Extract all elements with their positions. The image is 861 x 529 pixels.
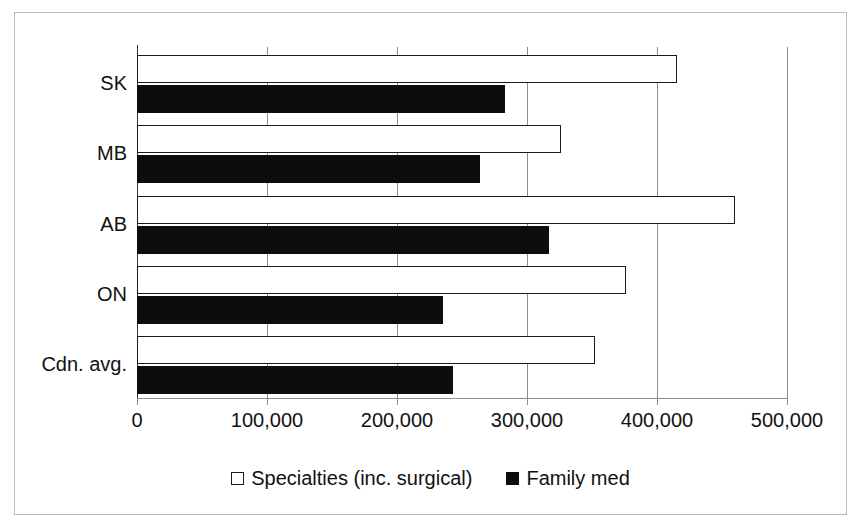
bar-on-family-med[interactable] (137, 296, 443, 324)
bar-cdn-avg-family-med[interactable] (137, 366, 453, 394)
filled-square-icon (506, 472, 519, 485)
category-label-ab: AB (7, 214, 127, 234)
x-tick-label: 400,000 (621, 410, 693, 430)
bar-sk-specialties[interactable] (137, 55, 677, 83)
bar-mb-family-med[interactable] (137, 155, 480, 183)
bar-cdn-avg-specialties[interactable] (137, 336, 595, 364)
bar-mb-specialties[interactable] (137, 125, 561, 153)
x-tick-300000 (527, 398, 528, 405)
bar-sk-family-med[interactable] (137, 85, 505, 113)
category-label-on: ON (7, 284, 127, 304)
x-tick-0 (137, 398, 138, 405)
legend-label-family-med: Family med (526, 468, 629, 488)
x-tick-label: 300,000 (491, 410, 563, 430)
legend-label-specialties: Specialties (inc. surgical) (251, 468, 472, 488)
x-tick-label: 0 (131, 410, 142, 430)
x-tick-500000 (787, 398, 788, 405)
x-tick-200000 (397, 398, 398, 405)
chart-legend: Specialties (inc. surgical) Family med (15, 468, 846, 488)
legend-item-family-med[interactable]: Family med (506, 468, 629, 488)
bar-on-specialties[interactable] (137, 266, 626, 294)
gridline-500000 (787, 47, 788, 398)
x-tick-label: 500,000 (751, 410, 823, 430)
category-label-sk: SK (7, 73, 127, 93)
x-tick-label: 100,000 (231, 410, 303, 430)
x-tick-label: 200,000 (361, 410, 433, 430)
bar-ab-family-med[interactable] (137, 226, 549, 254)
legend-item-specialties[interactable]: Specialties (inc. surgical) (231, 468, 472, 488)
category-label-mb: MB (7, 143, 127, 163)
bar-ab-specialties[interactable] (137, 196, 735, 224)
chart-screenshot: 0100,000200,000300,000400,000500,000SKMB… (0, 0, 861, 529)
x-tick-100000 (267, 398, 268, 405)
open-square-icon (231, 472, 244, 485)
x-axis-line (137, 398, 788, 399)
category-label-cdn-avg: Cdn. avg. (7, 354, 127, 374)
chart-frame: 0100,000200,000300,000400,000500,000SKMB… (14, 12, 847, 515)
x-tick-400000 (657, 398, 658, 405)
